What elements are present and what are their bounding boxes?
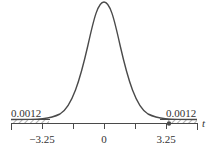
right-tail-label: 0.0012 xyxy=(166,107,196,119)
left-tail-shade xyxy=(11,120,49,123)
tick-label-neg: −3.25 xyxy=(29,133,55,145)
tick-label-pos: 3.25 xyxy=(156,133,176,145)
tick-label-zero: 0 xyxy=(101,133,107,145)
left-tail-label: 0.0012 xyxy=(11,107,41,119)
density-curve xyxy=(11,2,197,120)
t-distribution-chart: 0.0012 0.0012 −3.25 0 3.25 t xyxy=(0,0,215,152)
axis-variable-label: t xyxy=(202,117,206,129)
right-tail-shade xyxy=(168,120,197,123)
critical-point-marker xyxy=(167,121,171,125)
